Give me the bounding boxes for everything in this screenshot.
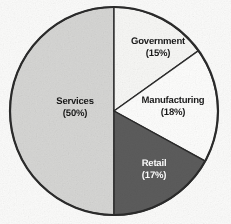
pie-label-retail-name: Retail: [123, 158, 185, 170]
pie-label-manufacturing-percent: (18%): [130, 107, 216, 119]
pie-label-services: Services (50%): [39, 96, 111, 120]
pie-label-government-name: Government: [118, 36, 198, 48]
pie-label-government-percent: (15%): [118, 48, 198, 60]
pie-label-manufacturing-name: Manufacturing: [130, 95, 216, 107]
pie-label-manufacturing: Manufacturing (18%): [130, 95, 216, 119]
pie-chart-figure: Government (15%) Manufacturing (18%) Ret…: [0, 0, 231, 224]
pie-label-services-name: Services: [39, 96, 111, 108]
pie-label-retail-percent: (17%): [123, 170, 185, 182]
pie-label-services-percent: (50%): [39, 108, 111, 120]
pie-label-government: Government (15%): [118, 36, 198, 60]
pie-label-retail: Retail (17%): [123, 158, 185, 182]
